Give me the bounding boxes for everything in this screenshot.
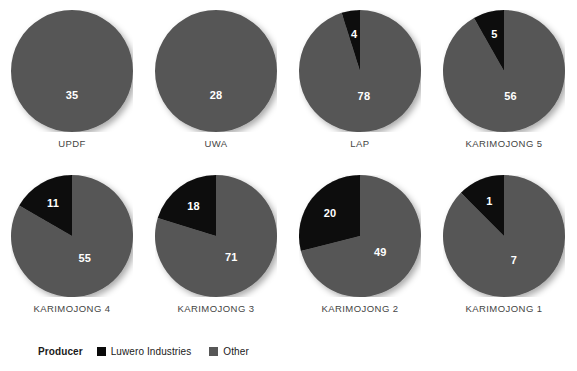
legend-label-other: Other [223,346,249,357]
pie-cell-karimojong-3: 1871KARIMOJONG 3 [144,175,288,330]
pie-cell-karimojong-4: 1155KARIMOJONG 4 [0,175,144,330]
legend-item-other[interactable]: Other [209,346,249,357]
pie-category-label: UPDF [0,138,144,149]
pie-chart-panel: 35UPDF28UWA478LAP556KARIMOJONG 51155KARI… [0,0,577,371]
legend-title: Producer [38,346,83,357]
pie-category-label: UWA [144,138,288,149]
pie-slice-other[interactable] [11,10,133,132]
pie-karimojong-4[interactable]: 1155 [11,175,133,297]
pie-karimojong-2[interactable]: 2049 [299,175,421,297]
legend-label-luwero-industries: Luwero Industries [111,346,192,357]
legend-swatch-luwero-industries [97,347,106,356]
legend-item-luwero-industries[interactable]: Luwero Industries [97,346,192,357]
pie-cell-lap: 478LAP [288,10,432,165]
pie-karimojong-5[interactable]: 556 [443,10,565,132]
pie-cell-karimojong-5: 556KARIMOJONG 5 [432,10,576,165]
pie-category-label: KARIMOJONG 1 [432,303,576,314]
pie-uwa[interactable]: 28 [155,10,277,132]
pie-cell-karimojong-2: 2049KARIMOJONG 2 [288,175,432,330]
chart-legend: Producer Luwero Industries Other [38,344,267,358]
pie-category-label: KARIMOJONG 2 [288,303,432,314]
pie-updf[interactable]: 35 [11,10,133,132]
pie-category-label: KARIMOJONG 5 [432,138,576,149]
pie-category-label: KARIMOJONG 4 [0,303,144,314]
pie-slice-other[interactable] [155,10,277,132]
pie-karimojong-3[interactable]: 1871 [155,175,277,297]
pie-cell-uwa: 28UWA [144,10,288,165]
pie-category-label: KARIMOJONG 3 [144,303,288,314]
pie-grid: 35UPDF28UWA478LAP556KARIMOJONG 51155KARI… [0,0,577,330]
pie-karimojong-1[interactable]: 17 [443,175,565,297]
pie-category-label: LAP [288,138,432,149]
legend-swatch-other [209,347,218,356]
pie-cell-updf: 35UPDF [0,10,144,165]
pie-lap[interactable]: 478 [299,10,421,132]
pie-cell-karimojong-1: 17KARIMOJONG 1 [432,175,576,330]
